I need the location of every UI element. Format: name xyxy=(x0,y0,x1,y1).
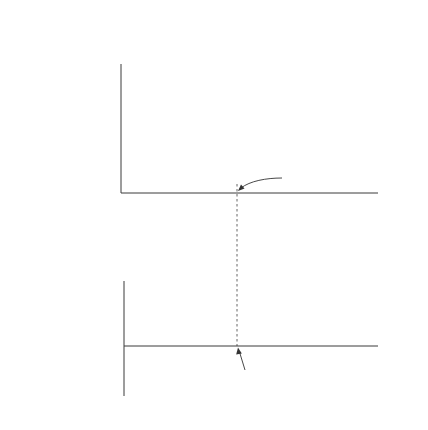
derivative-chart xyxy=(124,281,378,396)
derivative-annotation-leader xyxy=(240,352,246,370)
function-annotation-arrowhead xyxy=(238,185,245,192)
function-chart xyxy=(121,64,378,193)
function-annotation-leader xyxy=(241,178,282,188)
figure-canvas xyxy=(0,0,428,430)
derivative-annotation-arrowhead xyxy=(236,348,242,355)
